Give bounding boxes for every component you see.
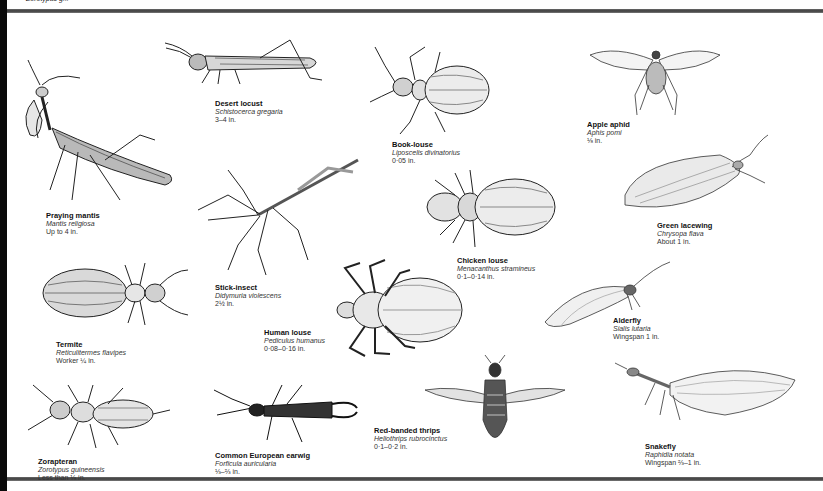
earwig-illustration: [212, 380, 362, 445]
praying-mantis-illustration: [20, 60, 180, 200]
scientific-name: Forficula auricularia: [215, 460, 310, 468]
green-lacewing-illustration: [620, 135, 770, 220]
common-name: Desert locust: [215, 100, 283, 108]
cutoff-caption: Zorotypus g...: [26, 0, 69, 2]
scientific-name: Menacanthus stramineus: [457, 265, 535, 273]
size-text: Worker ¼ in.: [56, 357, 126, 365]
common-name: Praying mantis: [46, 212, 100, 220]
scientific-name: Reticulitermes flavipes: [56, 349, 126, 357]
species-label: Book-louse Liposcelis divinatorius 0·05 …: [392, 141, 460, 165]
common-name: Book-louse: [392, 141, 460, 149]
species-label: Stick-insect Didymuria violescens 2½ in.: [215, 284, 281, 308]
scientific-name: Pediculus humanus: [264, 337, 325, 345]
species-label: Apple aphid Aphis pomi ⅛ in.: [587, 121, 630, 145]
species-label: Zorapteran Zorotypus guineensis Less tha…: [38, 458, 105, 482]
common-name: Stick-insect: [215, 284, 281, 292]
species-label: Praying mantis Mantis religiosa Up to 4 …: [46, 212, 100, 236]
scientific-name: Raphidia notata: [645, 451, 701, 459]
size-text: 0·1–0·2 in.: [374, 443, 447, 451]
size-text: 0·1–0·14 in.: [457, 273, 535, 281]
common-name: Zorapteran: [38, 458, 105, 466]
common-name: Apple aphid: [587, 121, 630, 129]
common-name: Human louse: [264, 329, 325, 337]
species-label: Chicken louse Menacanthus stramineus 0·1…: [457, 257, 535, 281]
human-louse-illustration: [325, 258, 470, 358]
common-name: Snakefly: [645, 443, 701, 451]
termite-illustration: [40, 255, 190, 330]
common-name: Chicken louse: [457, 257, 535, 265]
size-text: 2½ in.: [215, 300, 281, 308]
size-text: About 1 in.: [657, 238, 712, 246]
apple-aphid-illustration: [585, 40, 725, 115]
scientific-name: Heliothrips rubrocinctus: [374, 435, 447, 443]
scientific-name: Mantis religiosa: [46, 220, 100, 228]
desert-locust-illustration: [160, 38, 330, 88]
size-text: Wingspan ⅔–1 in.: [645, 459, 701, 467]
size-text: 0·08–0·16 in.: [264, 345, 325, 353]
species-label: Green lacewing Chrysopa flava About 1 in…: [657, 222, 712, 246]
zorapteran-illustration: [28, 380, 178, 455]
top-rule: [7, 9, 823, 13]
species-label: Common European earwig Forficula auricul…: [215, 452, 310, 476]
common-name: Red-banded thrips: [374, 427, 447, 435]
common-name: Termite: [56, 341, 126, 349]
scientific-name: Sialis lutaria: [613, 325, 659, 333]
common-name: Alderfly: [613, 317, 659, 325]
size-text: Wingspan 1 in.: [613, 333, 659, 341]
scientific-name: Chrysopa flava: [657, 230, 712, 238]
scientific-name: Didymuria violescens: [215, 292, 281, 300]
size-text: Up to 4 in.: [46, 228, 100, 236]
size-text: 0·05 in.: [392, 157, 460, 165]
stick-insect-illustration: [198, 150, 363, 275]
snakefly-illustration: [615, 355, 800, 445]
size-text: ⅛ in.: [587, 137, 630, 145]
size-text: 3–4 in.: [215, 116, 283, 124]
species-label: Red-banded thrips Heliothrips rubrocinct…: [374, 427, 447, 451]
common-name: Green lacewing: [657, 222, 712, 230]
common-name: Common European earwig: [215, 452, 310, 460]
size-text: ⅓–⅔ in.: [215, 468, 310, 476]
species-label: Snakefly Raphidia notata Wingspan ⅔–1 in…: [645, 443, 701, 467]
size-text: Less than ⅛ in.: [38, 474, 105, 482]
species-label: Termite Reticulitermes flavipes Worker ¼…: [56, 341, 126, 365]
chicken-louse-illustration: [415, 165, 565, 250]
page-left-edge: [0, 0, 7, 491]
species-label: Alderfly Sialis lutaria Wingspan 1 in.: [613, 317, 659, 341]
species-label: Human louse Pediculus humanus 0·08–0·16 …: [264, 329, 325, 353]
scientific-name: Aphis pomi: [587, 129, 630, 137]
species-label: Desert locust Schistocerca gregaria 3–4 …: [215, 100, 283, 124]
scientific-name: Liposcelis divinatorius: [392, 149, 460, 157]
scientific-name: Zorotypus guineensis: [38, 466, 105, 474]
scientific-name: Schistocerca gregaria: [215, 108, 283, 116]
book-louse-illustration: [365, 42, 495, 137]
bottom-rule: [7, 477, 823, 481]
